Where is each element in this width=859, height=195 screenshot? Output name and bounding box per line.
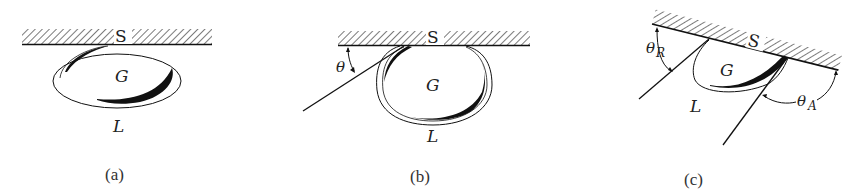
- bubble-shade-upper-left: [65, 46, 108, 72]
- bubble-shade-lower-right: [410, 60, 485, 120]
- solid-surface-hatch: [652, 9, 842, 70]
- surface-label: S: [427, 27, 439, 47]
- caption-a: (a): [105, 165, 124, 184]
- liquid-label: L: [112, 116, 124, 136]
- panel-a: S G L (a): [22, 26, 212, 184]
- liquid-label: L: [689, 96, 701, 116]
- caption-b: (b): [410, 167, 430, 186]
- receding-angle-label: θR: [646, 39, 665, 60]
- contact-angle-label: θ: [336, 58, 345, 76]
- advancing-angle-label: θA: [797, 92, 817, 113]
- arrowhead-icon: [346, 47, 350, 52]
- gas-label: G: [115, 66, 129, 86]
- tangent-line: [303, 46, 404, 111]
- arrowhead-icon: [834, 70, 838, 75]
- gas-label: G: [426, 75, 440, 95]
- gas-label: G: [720, 60, 734, 80]
- panel-b: S θ G L (b): [303, 27, 530, 186]
- surface-label: S: [115, 26, 127, 46]
- caption-c: (c): [684, 170, 703, 189]
- contact-angle-figure: S G L (a) S θ G L (b): [0, 0, 859, 195]
- advancing-angle-arc: [764, 96, 796, 103]
- bubble-shade-lower-right: [97, 68, 173, 104]
- panel-c: S θR θA G L (c): [639, 7, 843, 189]
- liquid-label: L: [426, 126, 438, 146]
- arrowhead-icon: [655, 27, 659, 32]
